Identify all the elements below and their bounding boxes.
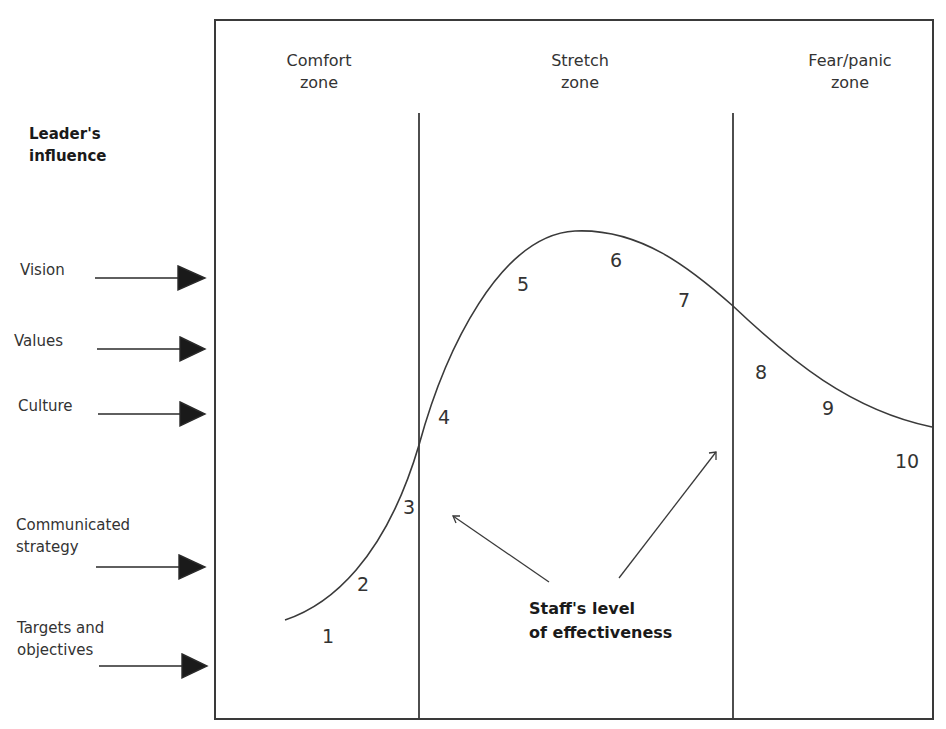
arrow-head-icon [179,555,205,579]
arrow-head-icon [182,654,207,678]
curve-point-4: 4 [438,406,450,428]
curve-point-1: 1 [322,625,334,647]
influence-label-communicated-strategy: Communicated strategy [16,514,130,558]
curve-point-7: 7 [678,289,690,311]
arrow-head-icon [180,402,205,426]
curve-point-9: 9 [822,397,834,419]
arrow-head-icon [178,266,205,290]
staff-effectiveness-label: Staff's level of effectiveness [529,597,672,645]
curve-point-6: 6 [610,249,622,271]
zone-label-stretch: Stretch zone [525,50,635,94]
influence-label-vision: Vision [20,260,65,280]
curve-point-5: 5 [517,273,529,295]
influence-label-culture: Culture [18,396,73,416]
curve-point-10: 10 [895,450,919,472]
curve-point-8: 8 [755,361,767,383]
diagram-canvas [0,0,946,729]
curve-point-3: 3 [403,496,415,518]
zone-label-fear-panic: Fear/panic zone [790,50,910,94]
curve-point-2: 2 [357,573,369,595]
influence-label-values: Values [14,331,63,351]
leaders-influence-heading: Leader's influence [29,123,107,167]
effectiveness-curve [285,231,932,620]
pointer-arrows [453,452,716,582]
influence-label-targets-objectives: Targets and objectives [17,617,104,661]
arrow-head-icon [180,337,205,361]
influence-arrows [95,266,207,678]
zone-label-comfort: Comfort zone [264,50,374,94]
